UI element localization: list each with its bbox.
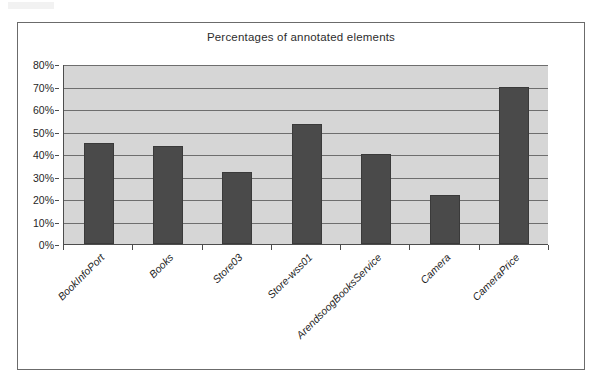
x-tick-label: CameraPrice (470, 251, 522, 303)
plot-area (63, 65, 548, 245)
y-tick-mark (55, 88, 59, 89)
chart-title: Percentages of annotated elements (18, 31, 584, 43)
x-tick-mark (271, 245, 272, 250)
x-tick-label: Camera (418, 251, 453, 286)
y-tick-mark (55, 223, 59, 224)
y-tick-label: 80% (33, 59, 54, 71)
x-tick-mark (63, 245, 64, 250)
x-tick-mark (202, 245, 203, 250)
y-tick-mark (55, 133, 59, 134)
bar (222, 172, 252, 244)
x-tick-label: Store-wss01 (264, 251, 314, 301)
y-tick-mark (55, 110, 59, 111)
bar (292, 124, 322, 244)
x-tick-label: Store03 (210, 251, 244, 285)
chart-figure: Percentages of annotated elements 0%10%2… (17, 22, 585, 370)
x-tick-label: BookInfoPort (55, 251, 106, 302)
y-tick-mark (55, 200, 59, 201)
y-tick-label: 0% (39, 239, 54, 251)
y-tick-label: 50% (33, 127, 54, 139)
x-axis-labels: BookInfoPortBooksStore03Store-wss01Arend… (63, 251, 583, 361)
bar (84, 143, 114, 244)
bar (430, 195, 460, 245)
x-tick-mark (409, 245, 410, 250)
y-tick-label: 40% (33, 149, 54, 161)
y-tick-mark (55, 65, 59, 66)
scan-artifact (8, 2, 54, 9)
y-tick-label: 20% (33, 194, 54, 206)
bar (499, 87, 529, 245)
y-tick-mark (55, 155, 59, 156)
y-axis: 0%10%20%30%40%50%60%70%80% (18, 65, 59, 245)
x-tick-mark (548, 245, 549, 250)
y-tick-label: 70% (33, 82, 54, 94)
y-tick-mark (55, 178, 59, 179)
y-tick-label: 60% (33, 104, 54, 116)
y-tick-label: 10% (33, 217, 54, 229)
bar-series (64, 65, 548, 244)
y-tick-label: 30% (33, 172, 54, 184)
bar (153, 146, 183, 244)
y-tick-mark (55, 245, 59, 246)
bar (361, 154, 391, 244)
x-tick-mark (479, 245, 480, 250)
x-tick-label: Books (146, 251, 175, 280)
x-tick-mark (132, 245, 133, 250)
x-tick-mark (340, 245, 341, 250)
